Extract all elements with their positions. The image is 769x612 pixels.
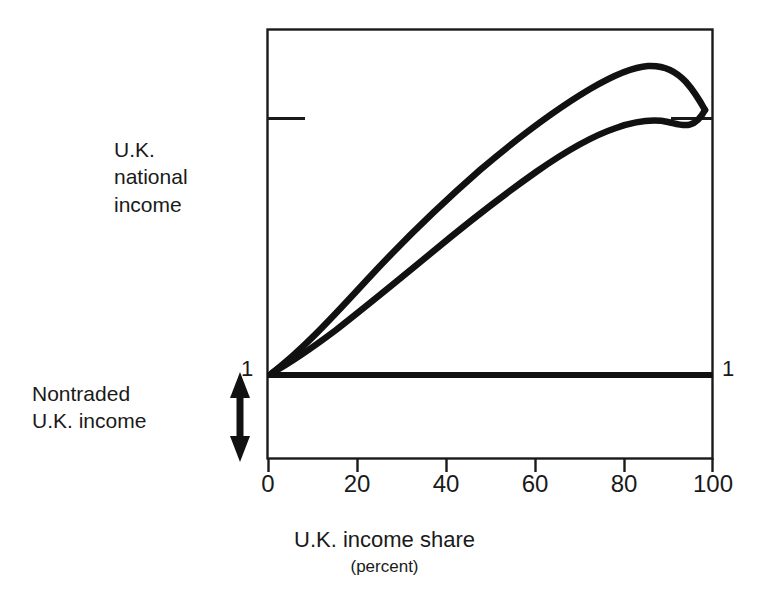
y-axis-label-nontraded-income: Nontraded U.K. income <box>32 380 146 435</box>
baseline-value-label-right: 1 <box>722 355 734 384</box>
baseline-value-label-left: 1 <box>241 355 253 384</box>
lower-curve <box>272 110 705 373</box>
chart-canvas <box>0 0 769 612</box>
plot-frame <box>268 30 713 459</box>
x-tick-label-80: 80 <box>611 470 638 498</box>
x-axis-units: (percent) <box>0 557 769 577</box>
x-tick-label-20: 20 <box>344 470 371 498</box>
x-tick-label-0: 0 <box>261 470 274 498</box>
x-tick-label-100: 100 <box>693 470 733 498</box>
nontraded-span-arrow-icon <box>230 372 250 462</box>
y-axis-label-national-income: U.K. national income <box>114 136 188 218</box>
x-axis-title: U.K. income share <box>0 527 769 553</box>
x-tick-label-40: 40 <box>433 470 460 498</box>
chart-figure: U.K. national income Nontraded U.K. inco… <box>0 0 769 612</box>
x-axis-ticks <box>269 458 713 472</box>
x-tick-label-60: 60 <box>522 470 549 498</box>
